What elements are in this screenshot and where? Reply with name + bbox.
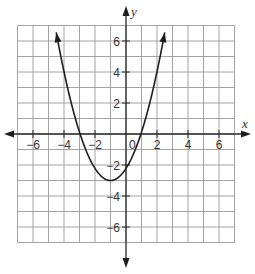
x-tick-label: 4 (185, 138, 192, 152)
curve-right-arrow (159, 32, 166, 42)
y-tick-label: 2 (113, 97, 120, 111)
y-tick-label: −4 (106, 190, 120, 204)
x-tick-label: 6 (216, 138, 223, 152)
y-axis-bottom-arrow (123, 258, 130, 268)
x-axis-left-arrow (4, 131, 14, 138)
y-tick-label: 6 (113, 35, 120, 49)
x-axis-label: x (241, 116, 248, 131)
y-axis-label: y (129, 4, 137, 19)
x-tick-label: −2 (88, 138, 102, 152)
curve-left-arrow (55, 32, 62, 42)
y-tick-label: −6 (106, 221, 120, 235)
x-axis-right-arrow (241, 131, 251, 138)
x-tick-label: −6 (26, 138, 40, 152)
axes (4, 6, 251, 268)
x-tick-label: 2 (154, 138, 161, 152)
y-tick-label: −2 (106, 159, 120, 173)
coordinate-plane-chart: −6−4−2246−6−4−2246 x y 0 (0, 0, 255, 274)
y-tick-label: 4 (113, 66, 120, 80)
x-tick-label: −4 (57, 138, 71, 152)
y-axis-top-arrow (123, 6, 130, 16)
